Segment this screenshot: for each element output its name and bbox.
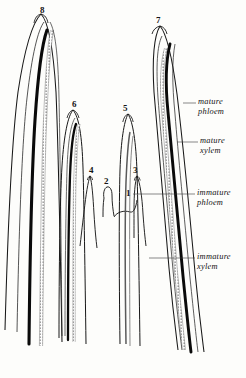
number-label-3: 3 (133, 166, 138, 175)
number-label-1: 1 (126, 189, 131, 198)
tissue-label-mature-phloem-line2: phloem (198, 107, 224, 117)
tissue-label-mature-phloem: mature phloem (198, 97, 224, 118)
number-label-2: 2 (104, 177, 109, 186)
tissue-label-mature-xylem: mature xylem (200, 136, 225, 157)
tissue-label-immature-phloem: immature phloem (197, 188, 231, 209)
number-label-5: 5 (123, 104, 128, 113)
tissue-label-immature-xylem: immature xylem (197, 252, 231, 273)
tissue-label-immature-xylem-line1: immature (197, 252, 231, 262)
tissue-label-immature-phloem-line1: immature (197, 188, 231, 198)
tissue-label-immature-xylem-line2: xylem (197, 262, 231, 272)
tissue-label-mature-phloem-line1: mature (198, 97, 224, 107)
number-label-7: 7 (156, 16, 161, 25)
number-label-8: 8 (40, 6, 45, 15)
tissue-label-mature-xylem-line2: xylem (200, 146, 225, 156)
number-label-6: 6 (72, 100, 77, 109)
leaf-primordia-figure: 1 2 3 4 5 6 7 8 mature phloem mature xyl… (0, 0, 246, 378)
tissue-label-immature-phloem-line2: phloem (197, 198, 231, 208)
number-label-4: 4 (89, 166, 94, 175)
tissue-label-mature-xylem-line1: mature (200, 136, 225, 146)
